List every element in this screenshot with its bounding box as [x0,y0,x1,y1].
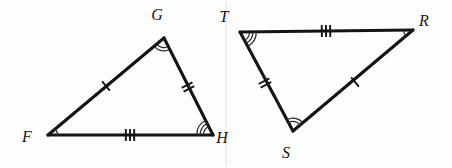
triangle-fgh: F G H [21,6,229,146]
vertex-label-h: H [215,129,229,146]
vertex-label-r: R [418,12,429,29]
vertex-label-f: F [21,128,32,145]
triangle-tsr: T R S [220,8,430,161]
vertex-label-t: T [220,8,230,25]
vertex-label-s: S [282,144,290,161]
geometry-canvas: F G H T R S [0,0,452,168]
vertex-label-g: G [151,6,163,23]
geometry-figure: F G H T R S [0,0,452,168]
